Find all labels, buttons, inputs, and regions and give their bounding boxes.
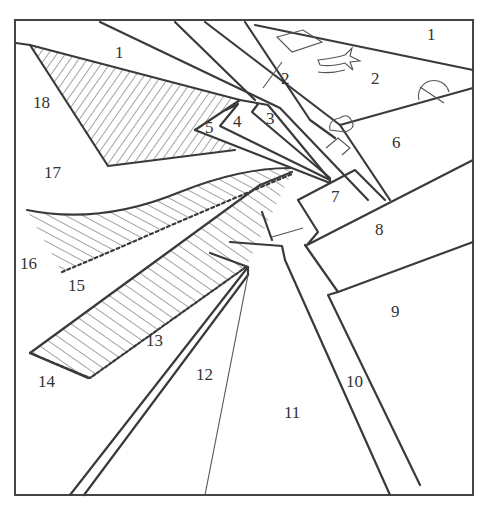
label-4: 4	[233, 112, 242, 131]
label-18: 18	[33, 93, 50, 112]
label-2a: 2	[281, 69, 290, 88]
label-14: 14	[38, 372, 56, 391]
label-16: 16	[20, 254, 37, 273]
label-7: 7	[331, 187, 340, 206]
drawing-canvas: 1 1 2 2 3 4 5 6 7 8 9 10 11 12 13 14 15 …	[0, 0, 493, 510]
label-9: 9	[391, 302, 400, 321]
label-5: 5	[205, 118, 214, 137]
label-1a: 1	[115, 43, 124, 62]
label-8: 8	[375, 220, 384, 239]
label-6: 6	[392, 133, 401, 152]
label-13: 13	[146, 331, 163, 350]
label-2b: 2	[371, 69, 380, 88]
label-11: 11	[284, 403, 300, 422]
label-12: 12	[196, 365, 213, 384]
label-3: 3	[266, 109, 275, 128]
label-1b: 1	[427, 25, 436, 44]
label-17: 17	[44, 163, 62, 182]
numbered-line-drawing: 1 1 2 2 3 4 5 6 7 8 9 10 11 12 13 14 15 …	[0, 0, 493, 510]
label-10: 10	[346, 372, 363, 391]
label-15: 15	[68, 276, 85, 295]
